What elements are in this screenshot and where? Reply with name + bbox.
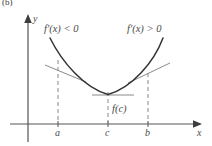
y-axis	[24, 14, 32, 142]
annotation-minimum-value: f(c)	[112, 104, 127, 115]
annotation-derivative-negative: f'(x) < 0	[44, 24, 78, 35]
y-axis-arrowhead	[24, 14, 32, 23]
y-axis-label: y	[33, 14, 37, 24]
tangent-line-at-a	[45, 65, 86, 82]
function-curve	[50, 38, 163, 95]
calculus-figure: (b) y x f'(x) < 0 f'(x) > 0 f(c) a c b	[0, 0, 212, 146]
tick-label-b: b	[145, 128, 150, 138]
x-axis-label: x	[197, 128, 201, 138]
tick-label-c: c	[105, 128, 109, 138]
tick-label-a: a	[55, 128, 60, 138]
figure-graphics	[0, 0, 212, 146]
annotation-derivative-positive: f'(x) > 0	[127, 24, 161, 35]
tangent-lines	[45, 63, 170, 95]
panel-label: (b)	[2, 0, 13, 7]
